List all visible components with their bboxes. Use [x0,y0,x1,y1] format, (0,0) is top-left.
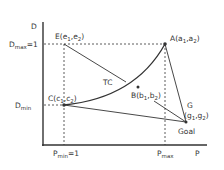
pmin-label: Pmin=1 [53,149,79,159]
line-e-b [64,44,126,82]
label-b: B(b1,b2) [131,91,161,101]
point-b [137,86,140,89]
pmax-label: Pmax [157,149,174,159]
label-g: G [187,101,193,110]
x-axis-label: P [195,149,200,158]
label-c: C(c1,c2) [48,94,77,104]
diagram: D P Dmax=1 Dmin Pmin=1 Pmax E(e1,e2) A(a… [0,0,224,170]
point-a [163,42,167,46]
label-e: E(e1,e2) [55,32,84,42]
label-a: A(a1,a2) [170,34,200,44]
label-g-coords: (g1,g2) [184,111,209,121]
dmax-label: Dmax=1 [9,40,38,50]
line-c-g [64,105,186,122]
curve-label-tc: TC [102,78,112,87]
y-axis-label: D [31,22,37,31]
point-g [185,121,188,124]
label-goal: Goal [178,127,195,136]
dmin-label: Dmin [15,101,32,111]
